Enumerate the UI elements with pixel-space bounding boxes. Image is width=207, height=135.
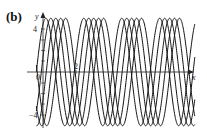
x-axis-label: x	[191, 73, 196, 82]
origin-label: 0	[36, 73, 40, 82]
y-axis-label: y	[34, 12, 39, 21]
x-tick-label-2: 2	[74, 62, 78, 71]
y-axis-arrow-icon	[41, 12, 46, 18]
sine-family-chart: y 4 0 −4 2 x	[0, 0, 207, 135]
y-tick-label-neg4: −4	[29, 111, 38, 120]
y-tick-label-4: 4	[33, 25, 37, 34]
